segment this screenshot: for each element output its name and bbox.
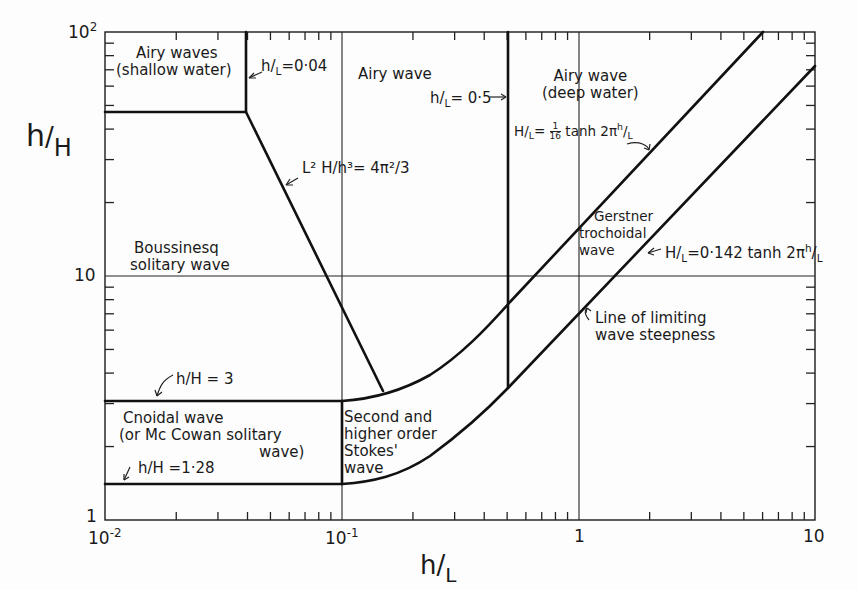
annotation-limiting-line: Line of limiting wave steepness bbox=[595, 310, 715, 344]
annotation-gerstner-limit: H/L= 116 tanh 2πh/L bbox=[514, 118, 633, 144]
region-airy-deep: Airy wave (deep water) bbox=[542, 68, 639, 102]
lhs-num: H bbox=[665, 244, 676, 262]
y-axis-den: H bbox=[54, 134, 72, 162]
ursell-line bbox=[246, 112, 383, 391]
y-axis-num: h bbox=[26, 118, 45, 153]
slash: / bbox=[45, 122, 54, 152]
region-label-line: Gerstner bbox=[594, 208, 653, 225]
y-tick-10-base: 10 bbox=[74, 265, 96, 285]
x-axis-title: h/L bbox=[420, 550, 456, 580]
region-label-line: (shallow water) bbox=[116, 62, 232, 79]
region-airy: Airy wave bbox=[358, 66, 432, 83]
region-label-line: trochoidal bbox=[579, 225, 653, 242]
rhs: =0·04 bbox=[281, 57, 327, 75]
x-tick-0.1-exp: -1 bbox=[347, 526, 359, 540]
y-axis-title: h/H bbox=[26, 118, 72, 153]
rhs-den: L bbox=[817, 252, 823, 264]
region-label-line: Airy wave bbox=[542, 68, 639, 85]
region-gerstner: Gerstner trochoidal wave bbox=[579, 208, 653, 259]
region-boussinesq: Boussinesq solitary wave bbox=[130, 240, 230, 274]
annotation-hL-0.04: h/L=0·04 bbox=[261, 58, 327, 80]
rhs-den: L bbox=[628, 130, 633, 141]
y-tick-label-10: 10 bbox=[74, 265, 96, 285]
region-airy-shallow: Airy waves (shallow water) bbox=[122, 45, 232, 79]
num: h bbox=[430, 89, 440, 107]
eq: = bbox=[534, 123, 545, 139]
equation-text: L² H/h³= 4π²/3 bbox=[302, 159, 410, 177]
x-tick-0.01-exp: -2 bbox=[110, 526, 122, 540]
slash: / bbox=[436, 550, 445, 580]
region-label-line: Cnoidal wave bbox=[123, 410, 304, 427]
annotation-hH-3: h/H = 3 bbox=[176, 371, 234, 388]
region-label-line: Airy wave bbox=[358, 66, 432, 83]
x-tick-label-10: 10 bbox=[803, 526, 825, 546]
region-label-line: Stokes' bbox=[344, 443, 437, 460]
region-stokes: Second and higher order Stokes' wave bbox=[344, 409, 437, 477]
region-label-line: Boussinesq bbox=[134, 240, 230, 257]
fraction-1-16: 116 bbox=[550, 122, 561, 141]
y-tick-label-1: 1 bbox=[86, 506, 97, 526]
x-axis-den: L bbox=[445, 563, 456, 587]
region-label-line: Second and bbox=[344, 409, 437, 426]
region-label-line: (deep water) bbox=[542, 85, 639, 102]
num: h bbox=[261, 57, 271, 75]
annotation-hH-1.28: h/H =1·28 bbox=[138, 460, 215, 477]
annotation-hL-0.5: h/L= 0·5 bbox=[430, 90, 492, 112]
x-tick-label-1: 1 bbox=[574, 526, 585, 546]
label-line: wave steepness bbox=[595, 327, 715, 344]
rhs: = 0·5 bbox=[450, 89, 491, 107]
region-label-line: (or Mc Cowan solitary bbox=[119, 427, 304, 444]
y-tick-100-exp: 2 bbox=[90, 20, 98, 34]
frac-den: 16 bbox=[550, 132, 561, 141]
wave-regime-diagram bbox=[0, 0, 858, 590]
y-tick-1-base: 1 bbox=[86, 506, 97, 526]
region-label-line: wave) bbox=[259, 444, 304, 461]
annotation-steepness-limit: H/L=0·142 tanh 2πh/L bbox=[665, 240, 823, 267]
rhs-num: h bbox=[805, 242, 812, 254]
region-label-line: wave bbox=[579, 242, 653, 259]
x-axis-num: h bbox=[420, 550, 436, 580]
x-tick-label-0.1: 10-1 bbox=[325, 526, 359, 548]
equation-text: h/H = 3 bbox=[176, 370, 234, 388]
region-label-line: Airy waves bbox=[122, 45, 232, 62]
y-tick-100-base: 10 bbox=[68, 22, 90, 42]
region-cnoidal: Cnoidal wave (or Mc Cowan solitary wave) bbox=[119, 410, 304, 461]
equation-text: h/H =1·28 bbox=[138, 459, 215, 477]
x-tick-0.01-base: 10 bbox=[88, 528, 110, 548]
annotation-ursell: L² H/h³= 4π²/3 bbox=[302, 160, 410, 177]
rhs: tanh 2π bbox=[561, 123, 617, 139]
region-label-line: higher order bbox=[344, 426, 437, 443]
x-tick-0.1-base: 10 bbox=[325, 528, 347, 548]
x-tick-1-base: 1 bbox=[574, 526, 585, 546]
region-label-line: solitary wave bbox=[130, 257, 230, 274]
x-tick-10-base: 10 bbox=[803, 526, 825, 546]
y-tick-label-100: 102 bbox=[68, 20, 97, 42]
lhs-num: H bbox=[514, 123, 524, 139]
region-label-line: wave bbox=[344, 460, 437, 477]
rhs: =0·142 tanh 2π bbox=[687, 244, 805, 262]
label-line: Line of limiting bbox=[595, 310, 715, 327]
x-tick-label-0.01: 10-2 bbox=[88, 526, 122, 548]
